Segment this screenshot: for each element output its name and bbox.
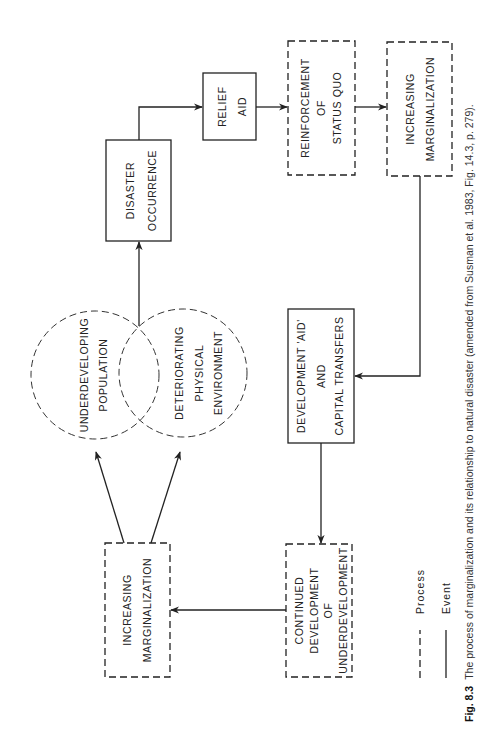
legend-process-label: Process bbox=[414, 569, 426, 614]
node-label-line: AID bbox=[236, 97, 248, 116]
node-deteriorating-environment: DETERIORATING PHYSICAL ENVIRONMENT bbox=[119, 309, 247, 437]
node-label-line: MARGINALIZATION bbox=[424, 57, 436, 161]
node-label-line: REINFORCEMENT bbox=[299, 58, 311, 157]
node-label-line: OCCURRENCE bbox=[146, 150, 158, 231]
caption-label: Fig. 8.3 bbox=[463, 686, 475, 722]
node-reinforcement-status-quo: REINFORCEMENT OF STATUS QUO bbox=[288, 41, 355, 175]
node-increasing-marginalization-bottom: INCREASING MARGINALIZATION bbox=[105, 543, 170, 677]
node-label-line: CAPITAL TRANSFERS bbox=[333, 316, 345, 435]
node-label-line: RELIEF bbox=[216, 86, 228, 126]
node-label-line: POPULATION bbox=[97, 339, 109, 412]
node-label-line: UNDERDEVELOPING bbox=[78, 318, 90, 433]
node-label-line: MARGINALIZATION bbox=[141, 558, 153, 662]
node-relief-aid: RELIEF AID bbox=[203, 73, 256, 140]
edge-arrow bbox=[355, 176, 420, 376]
edge-arrow bbox=[151, 452, 180, 543]
node-label-line: DEVELOPMENT 'AID' bbox=[295, 319, 307, 433]
figure-caption: Fig. 8.3The process of marginalization a… bbox=[463, 104, 475, 722]
node-label-line: INCREASING bbox=[404, 73, 416, 144]
node-label-line: DISASTER bbox=[124, 162, 136, 219]
node-label-line: OF bbox=[322, 603, 334, 619]
node-label-line: ENVIRONMENT bbox=[212, 331, 224, 415]
node-label-line: UNDERDEVELOPMENT bbox=[337, 547, 349, 673]
marginalization-diagram: DISASTER OCCURRENCE RELIEF AID REINFORCE… bbox=[0, 0, 495, 732]
node-development-aid: DEVELOPMENT 'AID' AND CAPITAL TRANSFERS bbox=[288, 309, 354, 443]
caption: Fig. 8.3The process of marginalization a… bbox=[463, 104, 475, 722]
caption-text: The process of marginalization and its r… bbox=[463, 104, 475, 679]
node-label-line: AND bbox=[315, 364, 327, 388]
edge-arrow bbox=[139, 107, 202, 140]
node-label-line: INCREASING bbox=[121, 574, 133, 645]
node-box bbox=[105, 543, 170, 677]
node-label-line: DEVELOPMENT bbox=[308, 568, 320, 654]
node-label-line: CONTINUED bbox=[293, 577, 305, 645]
node-box bbox=[203, 73, 256, 140]
edge-arrow bbox=[96, 452, 124, 543]
node-label-line: STATUS QUO bbox=[331, 72, 343, 145]
legend-event-label: Event bbox=[440, 582, 452, 614]
node-label-line: OF bbox=[315, 100, 327, 116]
node-disaster-occurrence: DISASTER OCCURRENCE bbox=[106, 140, 171, 241]
node-continued-development: CONTINUED DEVELOPMENT OF UNDERDEVELOPMEN… bbox=[286, 544, 352, 677]
node-box bbox=[387, 42, 452, 176]
node-label-line: DETERIORATING bbox=[173, 326, 185, 419]
legend: Process Event bbox=[414, 569, 452, 678]
node-box bbox=[106, 140, 171, 241]
node-label-line: PHYSICAL bbox=[193, 345, 205, 402]
node-increasing-marginalization-top: INCREASING MARGINALIZATION bbox=[387, 42, 452, 176]
